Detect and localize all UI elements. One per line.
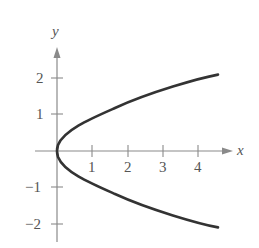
x-axis-arrow-icon [222, 148, 233, 155]
y-axis-arrow-icon [54, 47, 61, 58]
y-tick-label: −2 [25, 216, 41, 232]
y-axis-label: y [50, 23, 59, 39]
x-tick-label: 2 [124, 159, 132, 175]
x-axis-label: x [236, 142, 244, 158]
y-tick-label: 2 [36, 70, 44, 86]
parabola-chart: 1 2 3 4 2 1 −1 −2 x y [0, 0, 259, 248]
x-tick-label: 1 [88, 159, 96, 175]
x-tick-label: 3 [159, 159, 167, 175]
y-tick-label: −1 [25, 179, 41, 195]
y-tick-label: 1 [36, 106, 44, 122]
x-tick-label: 4 [194, 159, 202, 175]
